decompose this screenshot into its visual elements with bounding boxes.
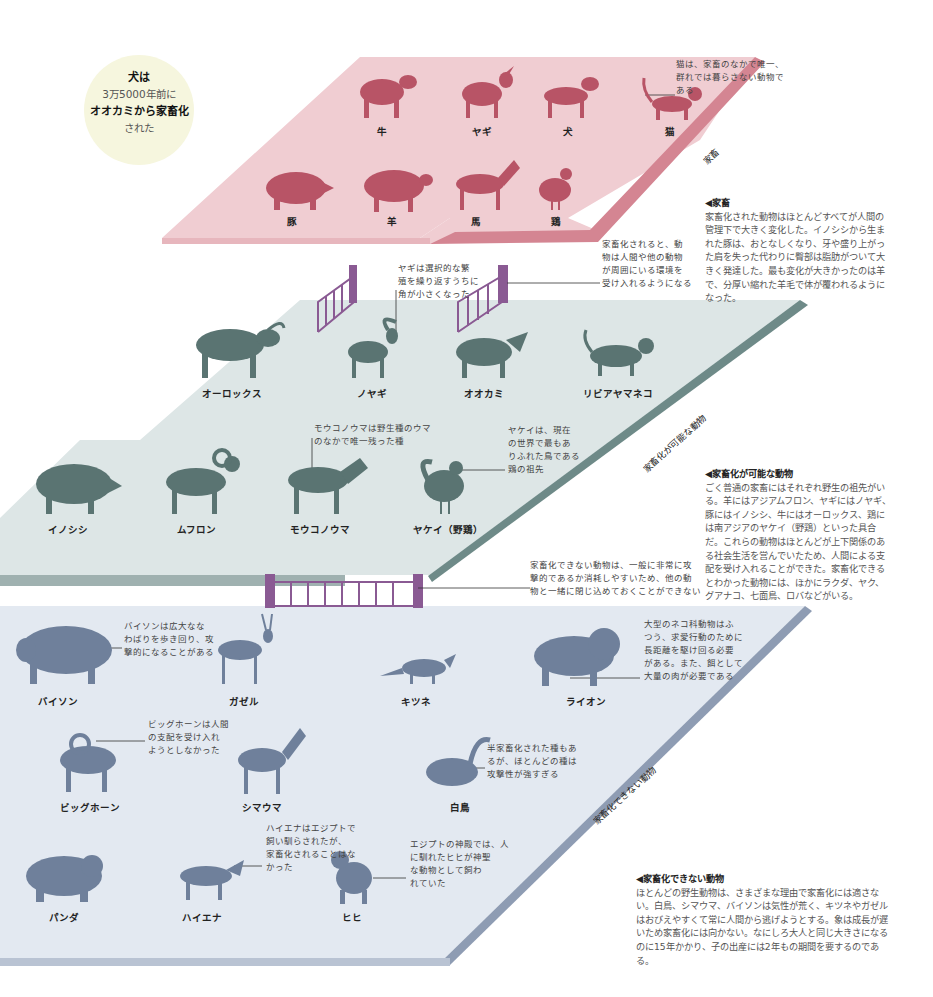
description-title: ◀家畜: [705, 196, 891, 210]
animal-label: ヤギ: [437, 124, 527, 138]
animal-label: 豚: [247, 214, 337, 228]
animal-label: ヤケイ（野鶏）: [403, 522, 493, 536]
animal-label: ノヤギ: [327, 386, 417, 400]
badge-line-2: 3万5000年前に: [84, 86, 194, 103]
animal-label: イノシシ: [23, 522, 113, 536]
description-body: 家畜化された動物はほとんどすべてが人間の管理下で大きく変化した。イノシシから生ま…: [705, 211, 885, 304]
animal-label: オオカミ: [439, 386, 529, 400]
note-cat: 猫は、家畜のなかで唯一、 群れでは暮らさない動物で ある: [676, 58, 784, 97]
animal-label: ハイエナ: [157, 910, 247, 924]
animal-label: オーロックス: [187, 386, 277, 400]
animal-label: ヒヒ: [307, 910, 397, 924]
animal-label: 鶏: [511, 214, 601, 228]
animal-label: ライオン: [541, 694, 631, 708]
animal-label: ムフロン: [151, 522, 241, 536]
animal-label: ビッグホーン: [45, 800, 135, 814]
note-baboon: エジプトの神殿では、人 に馴れたヒヒが神聖 な動物として飼わ れていた: [410, 838, 509, 890]
note-goat: ヤギは選択的な繁 殖を繰り返すうちに 角が小さくなった: [398, 262, 479, 301]
description-title: ◀家畜化できない動物: [636, 872, 896, 886]
note-bighorn: ビッグホーンは人間 の支配を受け入れ ようとしなかった: [148, 718, 229, 757]
description-title: ◀家畜化が可能な動物: [705, 467, 891, 481]
intro-badge: 犬は 3万5000年前に オオカミから家畜化 された: [84, 55, 194, 165]
note-lion: 大型のネコ科動物はふ つう、求愛行動のために 長距離を駆け回る必要 がある。また…: [644, 618, 743, 683]
description-body: ごく普通の家畜にはそれぞれ野生の祖先がいる。羊にはアジアムフロン、ヤギにはノヤギ…: [705, 482, 891, 602]
animal-label: 猫: [625, 124, 715, 138]
animal-label: 馬: [431, 214, 521, 228]
note-junglefowl: ヤケイは、現在 の世界で最もあ りふれた鳥である 鶏の祖先: [508, 424, 580, 476]
note-swan: 半家畜化された種もあ るが、ほとんどの種は 攻撃性が強すぎる: [487, 742, 577, 781]
animal-label: 犬: [523, 124, 613, 138]
badge-line-1: 犬は: [84, 69, 194, 86]
note-fence: 家畜化できない動物は、一般に非常に攻 撃的であるか消耗しやすいため、他の動 物と…: [530, 559, 701, 598]
description-possible: ◀家畜化が可能な動物 ごく普通の家畜にはそれぞれ野生の祖先がいる。羊にはアジアム…: [705, 467, 891, 603]
note-przewalski: モウコノウマは野生種のウマ のなかで唯一残った種: [314, 422, 431, 448]
description-impossible: ◀家畜化できない動物 ほとんどの野生動物は、さまざまな理由で家畜化には適さない。…: [636, 872, 896, 967]
animal-label: シマウマ: [217, 800, 307, 814]
animal-label: パンダ: [19, 910, 109, 924]
animal-label: 牛: [337, 124, 427, 138]
badge-line-4: された: [84, 120, 194, 137]
description-domestic: ◀家畜 家畜化された動物はほとんどすべてが人間の管理下で大きく変化した。イノシシ…: [705, 196, 891, 305]
animal-label: 羊: [347, 214, 437, 228]
animal-label: ガゼル: [199, 694, 289, 708]
animal-label: バイソン: [13, 694, 103, 708]
animal-label: キツネ: [371, 694, 461, 708]
description-body: ほとんどの野生動物は、さまざまな理由で家畜化には適さない。白鳥、シマウマ、バイソ…: [636, 887, 888, 966]
note-bison: バイソンは広大なな わばりを歩き回り、攻 撃的になることがある: [124, 620, 214, 659]
note-hyena: ハイエナはエジプトで 飼い馴らされたが、 家畜化されることはな かった: [266, 822, 356, 874]
animal-label: 白鳥: [415, 800, 505, 814]
animal-label: モウコノウマ: [275, 522, 365, 536]
note-domestication: 家畜化されると、動 物は人間や他の動物 が周囲にいる環境を 受け入れるようになる: [602, 238, 692, 290]
animal-label: リビアヤマネコ: [573, 386, 663, 400]
badge-line-3: オオカミから家畜化: [84, 103, 194, 120]
